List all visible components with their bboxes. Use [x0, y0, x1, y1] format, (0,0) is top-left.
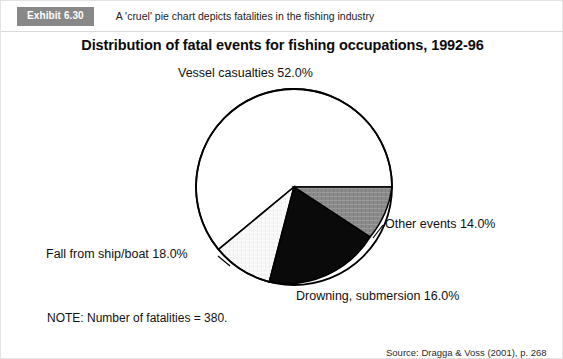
exhibit-caption: A 'cruel' pie chart depicts fatalities i…: [116, 10, 374, 22]
figure-source: Source: Dragga & Voss (2001), p. 268: [386, 347, 547, 358]
exhibit-header: Exhibit 6.30 A 'cruel' pie chart depicts…: [1, 1, 563, 31]
pie-label-fall-from-ship: Fall from ship/boat 18.0%: [46, 247, 188, 261]
figure-page: Exhibit 6.30 A 'cruel' pie chart depicts…: [0, 0, 563, 359]
pie-label-other-events: Other events 14.0%: [385, 217, 495, 231]
pie-label-drowning-submersion: Drowning, submersion 16.0%: [296, 289, 459, 303]
exhibit-badge: Exhibit 6.30: [17, 7, 94, 26]
pie-chart-graphic: [1, 32, 563, 359]
figure-note: NOTE: Number of fatalities = 380.: [47, 311, 227, 325]
pie-chart-figure: Distribution of fatal events for fishing…: [1, 32, 563, 359]
pie-label-vessel-casualties: Vessel casualties 52.0%: [178, 66, 313, 80]
